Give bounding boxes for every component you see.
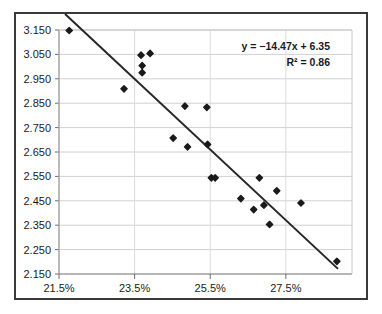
data-point (266, 221, 272, 227)
x-tick-label: 21.5% (43, 282, 74, 294)
y-tick-label: 2.350 (23, 219, 51, 231)
y-tick-label: 3.050 (23, 48, 51, 60)
y-tick-label: 2.750 (23, 122, 51, 134)
y-tick-label: 2.250 (23, 244, 51, 256)
data-point (121, 86, 127, 92)
y-tick-label: 2.150 (23, 268, 51, 280)
y-tick-label: 2.950 (23, 73, 51, 85)
data-point (139, 63, 145, 69)
y-tick-label: 2.850 (23, 97, 51, 109)
x-tick-label: 25.5% (195, 282, 226, 294)
x-tick-label: 23.5% (119, 282, 150, 294)
y-tick-label: 3.150 (23, 24, 51, 36)
data-point (138, 52, 144, 58)
data-point (334, 258, 340, 264)
data-point (139, 70, 145, 76)
x-tick-labels-group: 21.5%23.5%25.5%27.5% (43, 282, 301, 294)
r-squared-label: R² = 0.86 (287, 56, 331, 68)
y-tick-label: 2.550 (23, 170, 51, 182)
x-tick-marks-group (59, 274, 286, 279)
data-point (147, 50, 153, 56)
chart-figure: 2.1502.2502.3502.4502.5502.6502.7502.850… (0, 0, 382, 314)
data-point (66, 27, 72, 33)
y-tick-label: 2.650 (23, 146, 51, 158)
data-point (256, 175, 262, 181)
y-tick-label: 2.450 (23, 195, 51, 207)
x-tick-label: 27.5% (270, 282, 301, 294)
data-point (170, 135, 176, 141)
trendline-equation-label: y = −14.47x + 6.35 (242, 40, 331, 52)
trendline (65, 14, 338, 269)
data-point (274, 188, 280, 194)
scatter-chart: 2.1502.2502.3502.4502.5502.6502.7502.850… (0, 0, 382, 314)
data-point (184, 144, 190, 150)
y-tick-labels-group: 2.1502.2502.3502.4502.5502.6502.7502.850… (23, 24, 51, 280)
data-point (204, 104, 210, 110)
data-point (251, 206, 257, 212)
data-point (182, 103, 188, 109)
